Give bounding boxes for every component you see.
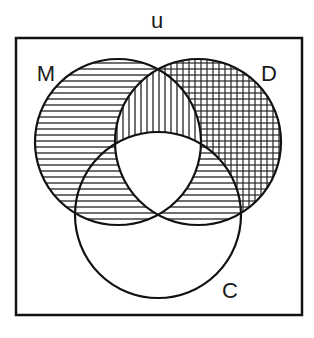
universe-label: u [151, 8, 163, 33]
set-d-label: D [261, 61, 277, 86]
set-m-label: M [37, 61, 55, 86]
venn-diagram: u M D C [0, 0, 314, 338]
set-c-label: C [222, 278, 238, 303]
